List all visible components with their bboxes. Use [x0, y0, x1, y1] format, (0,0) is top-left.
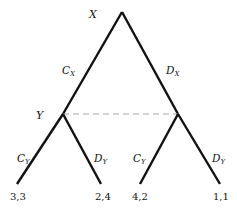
action-label-right-cy: CY: [133, 152, 147, 166]
action-label-left-dy: DY: [93, 152, 108, 166]
action-label-dx: DX: [165, 64, 180, 78]
payoff-dx-dy: 1,1: [213, 191, 229, 202]
branch-right-dy: [178, 114, 220, 184]
payoff-cx-cy: 3,3: [10, 191, 26, 202]
game-tree: X Y CX DX CY DY CY DY 3,3 2,4 4,2 1,1: [0, 0, 237, 213]
payoff-dx-cy: 4,2: [132, 191, 148, 202]
node-label-x: X: [88, 8, 98, 21]
action-left-dy-sub: Y: [102, 158, 108, 166]
branch-right-cy: [140, 114, 178, 184]
branch-left-cy: [17, 114, 63, 184]
action-right-dy-sub: Y: [220, 158, 226, 166]
action-left-cy-main: C: [17, 152, 25, 164]
action-label-left-cy: CY: [17, 152, 31, 166]
branch-left-dy: [63, 114, 101, 184]
action-right-cy-main: C: [133, 152, 141, 164]
branch-dx: [122, 12, 178, 114]
payoff-cx-dy: 2,4: [95, 191, 111, 202]
action-right-cy-sub: Y: [141, 158, 147, 166]
node-label-y: Y: [36, 109, 45, 122]
action-cx-main: C: [62, 64, 70, 76]
action-label-cx: CX: [62, 64, 76, 78]
branch-cx: [63, 12, 122, 114]
action-label-right-dy: DY: [211, 152, 226, 166]
action-cx-sub: X: [69, 70, 76, 78]
action-dx-sub: X: [173, 70, 180, 78]
